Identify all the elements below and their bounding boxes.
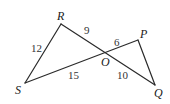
length-label-rs: 12 xyxy=(31,42,42,54)
length-label-ro: 9 xyxy=(84,24,90,36)
vertex-label-q: Q xyxy=(154,86,163,100)
vertex-label-o: O xyxy=(101,55,110,69)
segment-pq xyxy=(138,40,155,85)
vertex-label-s: S xyxy=(15,83,21,97)
vertex-label-p: P xyxy=(139,27,148,41)
triangle-diagram: R P O S Q 12 9 6 15 10 xyxy=(0,0,170,104)
vertex-label-r: R xyxy=(56,9,65,23)
length-label-so: 15 xyxy=(68,69,80,81)
length-label-op: 6 xyxy=(114,36,120,48)
length-label-oq: 10 xyxy=(117,69,129,81)
